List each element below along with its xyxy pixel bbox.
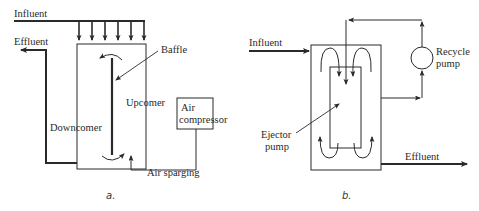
recycle-pump-label-2: pump <box>436 58 460 69</box>
influent-label-a: Influent <box>14 8 47 19</box>
ejector-pointer <box>296 104 339 133</box>
baffle-label: Baffle <box>161 44 187 55</box>
downcomer-label: Downcomer <box>50 122 102 133</box>
effluent-label-a: Effluent <box>14 36 48 47</box>
airlift-reactor-diagram: Influent Baffle Effluent Upcomer Downcom… <box>0 0 479 211</box>
effluent-pipe-a <box>21 50 77 163</box>
recycle-pump-label-1: Recycle <box>436 46 470 57</box>
air-compressor-label-1: Air <box>181 102 196 113</box>
air-line <box>131 129 196 170</box>
air-compressor-label-2: compressor <box>179 114 228 125</box>
baffle-pointer <box>116 51 158 80</box>
top-loop-right <box>353 48 371 76</box>
influent-label-b: Influent <box>249 37 282 48</box>
recycle-pump-icon <box>411 47 433 69</box>
air-sparging-label: Air sparging <box>147 167 200 178</box>
ejector-pump-label-2: pump <box>265 141 289 152</box>
panel-b: Influent Recycle pump Ejector pump Efflu… <box>249 20 470 201</box>
distribution-arrows <box>79 21 144 40</box>
caption-a: a. <box>106 190 115 201</box>
effluent-label-b: Effluent <box>405 151 439 162</box>
ejector-pump-label-1: Ejector <box>261 129 292 140</box>
caption-b: b. <box>342 190 352 201</box>
panel-a: Influent Baffle Effluent Upcomer Downcom… <box>14 8 228 201</box>
upcomer-label: Upcomer <box>126 97 166 108</box>
